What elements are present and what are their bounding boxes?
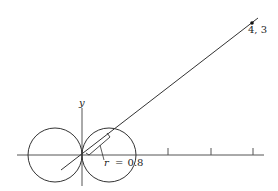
diagram-canvas: y 4, 3 r = 0.8 [0, 0, 278, 191]
radius-value: 0.8 [128, 157, 144, 168]
radius-label: r = 0.8 [104, 157, 143, 168]
radius-equals: = [115, 157, 123, 168]
ray-line [61, 18, 258, 170]
y-axis-label: y [78, 97, 85, 108]
point-label: 4, 3 [248, 24, 267, 35]
radius-symbol: r [104, 157, 110, 168]
